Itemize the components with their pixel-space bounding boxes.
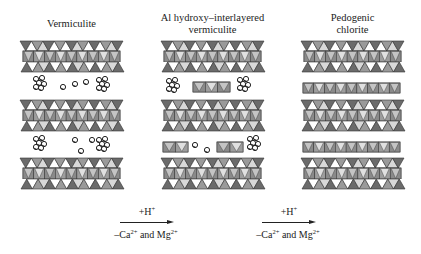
hydrated-cation-icon	[172, 77, 177, 82]
reaction-1-top-label: +H+	[117, 206, 177, 217]
hydrated-cation-icon	[89, 137, 94, 142]
reaction-2-top-label: +H+	[259, 206, 319, 217]
hydrated-cation-icon	[253, 135, 258, 140]
reaction-1-bottom-label: –Ca2+ and Mg2+	[100, 229, 192, 240]
charge: +	[152, 205, 156, 212]
hydrated-cation-icon	[39, 75, 44, 80]
ion: –Ca	[114, 229, 130, 240]
charge: 2+	[313, 228, 320, 235]
hydrated-cation-icon	[38, 145, 43, 150]
tot-silicate-layer	[20, 41, 124, 72]
reaction-1-arrow	[120, 222, 168, 223]
hydrated-cation-icon	[96, 145, 101, 150]
hydrated-cation-icon	[72, 137, 77, 142]
hydroxy-interlayer-sheet	[193, 82, 230, 92]
ion: and Mg	[137, 229, 170, 240]
hydrated-cation-icon	[83, 79, 88, 84]
hydrated-cation-icon	[252, 145, 257, 150]
reagent: +H	[281, 206, 294, 217]
hydroxy-interlayer-sheet	[163, 142, 188, 152]
tot-silicate-layer	[301, 100, 405, 131]
clay-structure-diagram	[0, 0, 421, 254]
hydroxy-interlayer-sheet	[303, 142, 400, 152]
tot-silicate-layer	[161, 100, 265, 131]
hydrated-cation-icon	[101, 146, 106, 151]
charge: +	[294, 205, 298, 212]
hydrated-cation-icon	[102, 136, 107, 141]
ion: and Mg	[279, 229, 312, 240]
hydrated-cation-icon	[38, 85, 43, 90]
tot-silicate-layer	[161, 158, 265, 189]
hydrated-cation-icon	[237, 85, 242, 90]
tot-silicate-layer	[301, 158, 405, 189]
ion: –Ca	[256, 229, 272, 240]
arrowhead-icon	[167, 220, 174, 224]
hydrated-cation-icon	[192, 142, 197, 147]
hydrated-cation-icon	[96, 85, 101, 90]
tot-silicate-layer	[301, 41, 405, 72]
tot-silicate-layer	[161, 41, 265, 72]
hydrated-cation-icon	[39, 135, 44, 140]
tot-silicate-layer	[20, 158, 124, 189]
hydrated-cation-icon	[102, 76, 107, 81]
hydrated-cation-icon	[243, 76, 248, 81]
hydrated-cation-icon	[60, 84, 65, 89]
arrowhead-icon	[309, 220, 316, 224]
hydrated-cation-icon	[72, 81, 77, 86]
reagent: +H	[139, 206, 152, 217]
charge: 2+	[171, 228, 178, 235]
hydrated-cation-icon	[166, 86, 171, 91]
hydrated-cation-icon	[101, 86, 106, 91]
reaction-2-bottom-label: –Ca2+ and Mg2+	[242, 229, 334, 240]
hydroxy-interlayer-sheet	[303, 83, 400, 93]
hydrated-cation-icon	[204, 147, 209, 152]
hydrated-cation-icon	[242, 86, 247, 91]
tot-silicate-layer	[20, 100, 124, 131]
reaction-2-arrow	[262, 222, 310, 223]
hydrated-cation-icon	[33, 84, 38, 89]
hydroxy-interlayer-sheet	[217, 142, 243, 152]
hydrated-cation-icon	[171, 87, 176, 92]
hydrated-cation-icon	[33, 144, 38, 149]
hydrated-cation-icon	[247, 144, 252, 149]
hydrated-cation-icon	[78, 148, 83, 153]
